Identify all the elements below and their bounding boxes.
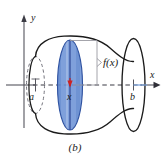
- y-axis-label: y: [30, 12, 36, 23]
- lower-limit-label: a: [29, 91, 34, 102]
- figure-caption: (b): [69, 141, 82, 154]
- upper-limit-label: b: [130, 91, 135, 102]
- x-axis-label: x: [149, 69, 155, 80]
- figure-canvas: f(x) x a b y x (b): [0, 0, 164, 159]
- solid-of-revolution-figure: f(x) x a b y x (b): [0, 0, 164, 159]
- fx-label: f(x): [103, 56, 119, 69]
- sample-point-label: x: [66, 91, 72, 102]
